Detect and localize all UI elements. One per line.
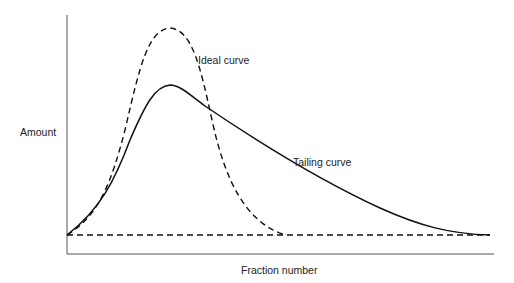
chart-canvas: [0, 0, 514, 283]
tailing-curve-label: Tailing curve: [293, 156, 351, 168]
ideal-curve-label: Ideal curve: [198, 54, 249, 66]
x-axis-label: Fraction number: [241, 264, 317, 276]
tailing-curve: [67, 85, 490, 235]
y-axis-label: Amount: [20, 126, 56, 138]
ideal-curve: [67, 28, 285, 235]
